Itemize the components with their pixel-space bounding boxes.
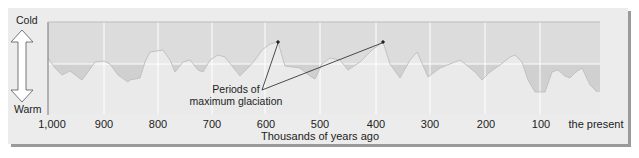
x-tick-300: 300 <box>421 119 439 130</box>
x-tick-500: 500 <box>311 119 329 130</box>
x-tick-900: 900 <box>95 119 113 130</box>
annotation-line-1: Periods of <box>190 83 283 95</box>
x-tick-400: 400 <box>367 119 385 130</box>
annotation-line-2: maximum glaciation <box>190 95 283 107</box>
glaciation-annotation: Periods of maximum glaciation <box>190 83 283 107</box>
x-tick-200: 200 <box>477 119 495 130</box>
x-tick-800: 800 <box>149 119 167 130</box>
x-tick-100: 100 <box>532 119 550 130</box>
x-tick-700: 700 <box>203 119 221 130</box>
x-tick-600: 600 <box>257 119 275 130</box>
x-tick-1000: 1,000 <box>38 119 66 130</box>
x-tick-present: the present <box>568 119 623 130</box>
x-axis-title: Thousands of years ago <box>261 131 379 142</box>
cold-warm-double-arrow-icon <box>11 30 33 102</box>
warm-label: Warm <box>14 104 42 115</box>
cold-label: Cold <box>16 15 38 26</box>
